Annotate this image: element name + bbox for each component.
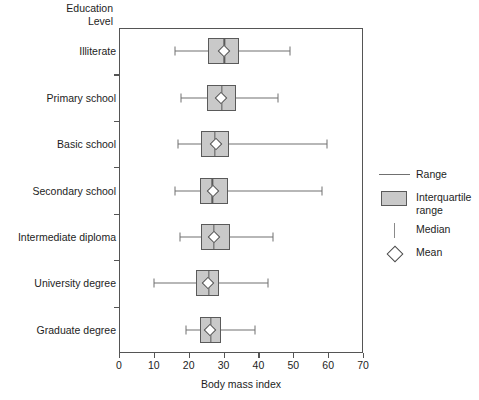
y-tick [114, 214, 119, 215]
y-tick [114, 260, 119, 261]
y-axis-label-intermediate-diploma: Intermediate diploma [3, 231, 116, 243]
legend-item-median: Median [378, 221, 478, 239]
y-tick [114, 74, 119, 75]
plot-frame [119, 28, 363, 353]
x-tick-label: 70 [357, 359, 369, 371]
y-tick [114, 167, 119, 168]
legend-item-iqr: Interquartile range [378, 189, 478, 216]
y-axis-category-labels: IlliteratePrimary schoolBasic schoolSeco… [0, 0, 116, 400]
x-tick-label: 0 [116, 359, 122, 371]
range-line-icon [378, 166, 412, 184]
x-tick-label: 60 [322, 359, 334, 371]
y-tick [114, 121, 119, 122]
x-tick [119, 353, 120, 358]
y-axis-label-secondary-school: Secondary school [3, 185, 116, 197]
x-tick-label: 20 [183, 359, 195, 371]
x-tick [328, 353, 329, 358]
legend-label-range: Range [412, 166, 447, 181]
legend-item-mean: Mean [378, 244, 478, 262]
legend: Range Interquartile range Median Mean [378, 166, 478, 267]
x-tick-label: 40 [253, 359, 265, 371]
iqr-box-icon [378, 189, 412, 207]
x-tick-label: 50 [287, 359, 299, 371]
y-axis-label-illiterate: Illiterate [3, 45, 116, 57]
x-axis-title: Body mass index [119, 378, 363, 390]
x-tick-label: 30 [218, 359, 230, 371]
y-axis-label-university-degree: University degree [3, 277, 116, 289]
mean-diamond-icon [378, 244, 412, 262]
x-tick [293, 353, 294, 358]
x-tick-label: 10 [148, 359, 160, 371]
legend-label-mean: Mean [412, 244, 442, 259]
x-tick [189, 353, 190, 358]
legend-label-median: Median [412, 221, 450, 236]
y-axis-label-primary-school: Primary school [3, 92, 116, 104]
y-tick [114, 307, 119, 308]
legend-label-iqr: Interquartile range [412, 189, 478, 216]
x-tick [154, 353, 155, 358]
x-tick [258, 353, 259, 358]
median-line-icon [378, 221, 412, 239]
y-axis-label-graduate-degree: Graduate degree [3, 324, 116, 336]
y-axis-label-basic-school: Basic school [3, 138, 116, 150]
legend-item-range: Range [378, 166, 478, 184]
boxplot-figure: Education Level IlliteratePrimary school… [0, 0, 479, 400]
x-tick [224, 353, 225, 358]
x-tick [363, 353, 364, 358]
